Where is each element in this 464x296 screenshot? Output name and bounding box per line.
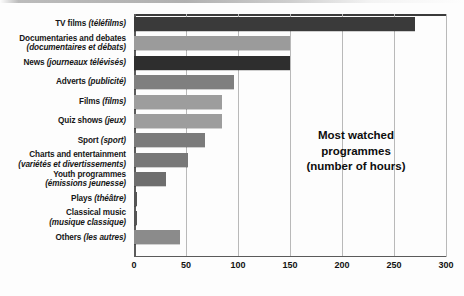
x-tick-label-300: 300 xyxy=(438,260,453,270)
bar xyxy=(134,17,415,31)
bar-row xyxy=(134,211,137,225)
category-label: Classical music(musique classique) xyxy=(49,208,126,227)
x-axis-tick-labels: 050100150200250300 xyxy=(134,260,446,274)
bar xyxy=(134,36,290,50)
bar-row xyxy=(134,133,205,147)
x-tick-label-150: 150 xyxy=(282,260,297,270)
bar xyxy=(134,211,137,225)
bar-row xyxy=(134,153,188,167)
x-tick-label-250: 250 xyxy=(386,260,401,270)
bar-row xyxy=(134,17,415,31)
category-label: Documentaries and debates(documentaires … xyxy=(19,34,126,53)
x-tick-label-50: 50 xyxy=(181,260,191,270)
chart-title-line-1: Most watched xyxy=(268,128,444,144)
chart-title: Most watched programmes (number of hours… xyxy=(268,128,444,175)
bar-row xyxy=(134,75,234,89)
bar xyxy=(134,75,234,89)
bar xyxy=(134,114,222,128)
category-label: Adverts (publicité) xyxy=(56,77,126,87)
x-tick-label-200: 200 xyxy=(334,260,349,270)
bar-row xyxy=(134,36,290,50)
bar-row xyxy=(134,114,222,128)
x-tick-label-100: 100 xyxy=(230,260,245,270)
category-label: Youth programmes(émissions jeunesse) xyxy=(45,170,126,189)
bar-row xyxy=(134,95,222,109)
bar xyxy=(134,153,188,167)
bar xyxy=(134,230,180,244)
bar xyxy=(134,56,290,70)
gridline-300 xyxy=(446,14,447,257)
category-axis-labels: TV films (téléfilms)Documentaries and de… xyxy=(0,14,130,257)
bar-chart: TV films (téléfilms)Documentaries and de… xyxy=(0,0,464,296)
category-label: News (journeaux télévisés) xyxy=(23,58,126,68)
chart-title-line-2: programmes xyxy=(268,144,444,160)
bar-row xyxy=(134,56,290,70)
category-label: Charts and entertainment(variétés et div… xyxy=(18,150,126,169)
bar xyxy=(134,95,222,109)
category-label: Others (les autres) xyxy=(56,233,126,243)
bar xyxy=(134,133,205,147)
category-label: TV films (téléfilms) xyxy=(55,19,126,29)
bar xyxy=(134,192,137,206)
category-label: Quiz shows (jeux) xyxy=(58,116,126,126)
category-label: Films (films) xyxy=(79,97,126,107)
bar-row xyxy=(134,230,180,244)
x-tick-label-0: 0 xyxy=(131,260,136,270)
bar-row xyxy=(134,172,166,186)
category-label: Sport (sport) xyxy=(78,136,126,146)
bar-row xyxy=(134,192,137,206)
bar xyxy=(134,172,166,186)
chart-title-line-3: (number of hours) xyxy=(268,159,444,175)
category-label: Plays (théâtre) xyxy=(71,194,126,204)
